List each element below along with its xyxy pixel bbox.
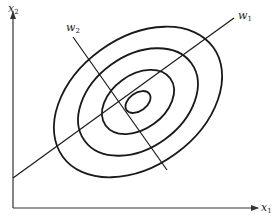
diagram: x2 x1 w1 w2 xyxy=(0,0,273,217)
w1-label: w1 xyxy=(238,10,252,23)
w1-line xyxy=(13,18,234,178)
contour-ellipses xyxy=(25,0,251,208)
w2-line xyxy=(73,37,167,170)
x2-axis-label: x2 xyxy=(8,3,19,16)
x1-axis-label: x1 xyxy=(261,202,272,215)
diagram-canvas xyxy=(0,0,273,217)
ellipse-4 xyxy=(25,0,251,208)
w2-label: w2 xyxy=(66,22,80,35)
